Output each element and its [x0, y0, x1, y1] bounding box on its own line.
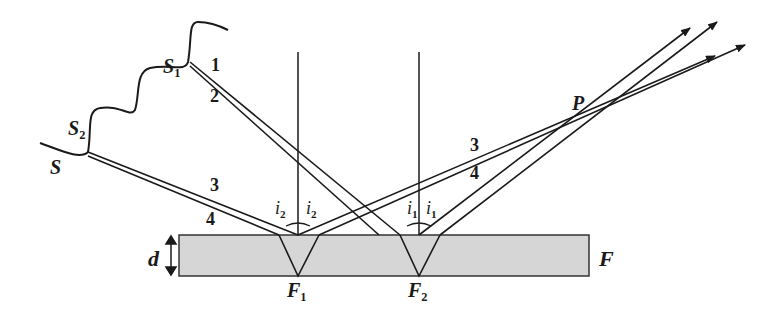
- label-F1: F1: [287, 280, 307, 300]
- label-d: d: [148, 248, 159, 270]
- label-P: P: [572, 93, 584, 113]
- label-F: F: [599, 248, 614, 270]
- label-S1: S1: [163, 56, 180, 76]
- ray-label-3-left: 3: [210, 176, 219, 194]
- label-S: S: [50, 157, 61, 177]
- ray-label-4-right: 4: [470, 164, 479, 182]
- film-slab: [179, 235, 589, 276]
- angle-label-i1-right: i1: [426, 199, 437, 217]
- angle-label-i2-right: i2: [306, 199, 317, 217]
- angle-label-i1-left: i1: [407, 199, 418, 217]
- diagram-canvas: [0, 0, 777, 313]
- ray-label-1: 1: [211, 56, 220, 74]
- thickness-arrow: [166, 236, 176, 275]
- ray-label-2: 2: [210, 87, 219, 105]
- ray-label-4-left: 4: [206, 210, 215, 228]
- ray-label-3-right: 3: [470, 136, 479, 154]
- angle-label-i2-left: i2: [275, 199, 286, 217]
- label-S2: S2: [68, 118, 85, 138]
- label-F2: F2: [408, 280, 428, 300]
